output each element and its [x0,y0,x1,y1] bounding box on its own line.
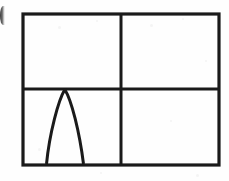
quadrant-figure [0,0,229,181]
figure-canvas [0,0,229,181]
scan-speck [170,120,172,122]
downward-parabola-curve [47,90,84,165]
scan-speck [182,18,184,20]
scan-speck [150,24,153,27]
scan-speck [100,172,102,174]
scan-speck [205,60,207,62]
scan-speck [96,20,98,22]
scan-speck [58,26,61,29]
scan-speck [196,174,199,177]
scan-speck [38,148,41,151]
